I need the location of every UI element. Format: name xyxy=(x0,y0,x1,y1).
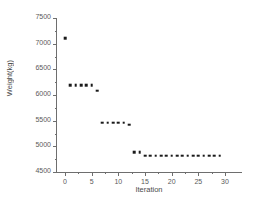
y-axis-tick-label: 5500 xyxy=(35,116,51,123)
data-point xyxy=(133,151,136,154)
data-point xyxy=(181,154,184,157)
x-axis-minor-tick-mark xyxy=(212,172,213,174)
x-axis-minor-tick xyxy=(78,172,79,173)
data-point xyxy=(96,90,99,93)
x-axis-tick: 20 xyxy=(172,172,173,173)
x-axis-minor-tick xyxy=(212,172,213,173)
data-point xyxy=(186,154,189,157)
x-axis-minor-tick-mark xyxy=(158,172,159,174)
y-axis-tick-label: 5000 xyxy=(35,141,51,148)
x-axis-tick: 25 xyxy=(198,172,199,173)
data-point xyxy=(149,154,152,157)
y-axis-tick-label: 7000 xyxy=(35,39,51,46)
y-axis-tick: 4500 xyxy=(57,172,58,173)
data-point xyxy=(197,154,200,157)
y-axis-tick-mark xyxy=(53,172,57,173)
x-axis-tick-label: 25 xyxy=(194,178,202,185)
chart-figure: 4500500055006000650070007500 05101520253… xyxy=(0,0,258,202)
x-axis-minor-tick xyxy=(132,172,133,173)
data-point xyxy=(192,154,195,157)
data-point xyxy=(117,121,120,124)
data-point xyxy=(218,154,221,157)
y-axis-tick-label: 4500 xyxy=(35,167,51,174)
x-axis-tick-label: 5 xyxy=(90,178,94,185)
data-point xyxy=(85,84,88,87)
data-point xyxy=(101,121,104,124)
x-axis-tick: 0 xyxy=(65,172,66,173)
x-axis-tick: 5 xyxy=(92,172,93,173)
data-point xyxy=(69,84,72,87)
x-axis-minor-tick-mark xyxy=(185,172,186,174)
x-axis-tick: 30 xyxy=(225,172,226,173)
x-axis-tick-mark xyxy=(172,172,173,176)
x-axis-tick-mark xyxy=(92,172,93,176)
data-point xyxy=(80,84,83,87)
data-point xyxy=(165,154,168,157)
x-axis-tick: 15 xyxy=(145,172,146,173)
data-point xyxy=(202,154,205,157)
x-axis-title: Iteration xyxy=(57,186,241,194)
x-axis-minor-tick-mark xyxy=(78,172,79,174)
data-point xyxy=(90,84,93,87)
x-axis-tick-label: 0 xyxy=(63,178,67,185)
x-axis-tick-label: 10 xyxy=(114,178,122,185)
x-axis-tick-label: 15 xyxy=(141,178,149,185)
x-axis-tick-label: 20 xyxy=(168,178,176,185)
x-axis-tick-mark xyxy=(145,172,146,176)
x-axis-minor-tick xyxy=(185,172,186,173)
x-axis-minor-tick-mark xyxy=(105,172,106,174)
data-point xyxy=(64,37,67,40)
data-point xyxy=(154,154,157,157)
data-point xyxy=(112,121,115,124)
x-axis-tick-mark xyxy=(118,172,119,176)
plot-area xyxy=(57,18,241,172)
x-axis-tick-mark xyxy=(225,172,226,176)
data-point xyxy=(160,154,163,157)
data-point xyxy=(138,151,141,154)
y-axis-tick-label: 6500 xyxy=(35,64,51,71)
data-point xyxy=(106,121,109,124)
y-axis-tick-label: 6000 xyxy=(35,90,51,97)
x-axis-minor-tick-mark xyxy=(132,172,133,174)
data-point xyxy=(122,121,125,124)
data-point xyxy=(170,154,173,157)
x-axis-minor-tick xyxy=(158,172,159,173)
data-point xyxy=(176,154,179,157)
data-point xyxy=(208,154,211,157)
data-point xyxy=(213,154,216,157)
data-point xyxy=(144,154,147,157)
data-point xyxy=(128,123,131,126)
y-axis-tick-label: 7500 xyxy=(35,13,51,20)
x-axis-tick-mark xyxy=(198,172,199,176)
x-axis-tick-label: 30 xyxy=(221,178,229,185)
y-axis-title: Weight(kg) xyxy=(6,60,18,96)
x-axis-tick: 10 xyxy=(118,172,119,173)
x-axis-spine xyxy=(56,172,242,173)
data-point xyxy=(74,84,77,87)
x-axis-minor-tick xyxy=(105,172,106,173)
x-axis-tick-mark xyxy=(65,172,66,176)
